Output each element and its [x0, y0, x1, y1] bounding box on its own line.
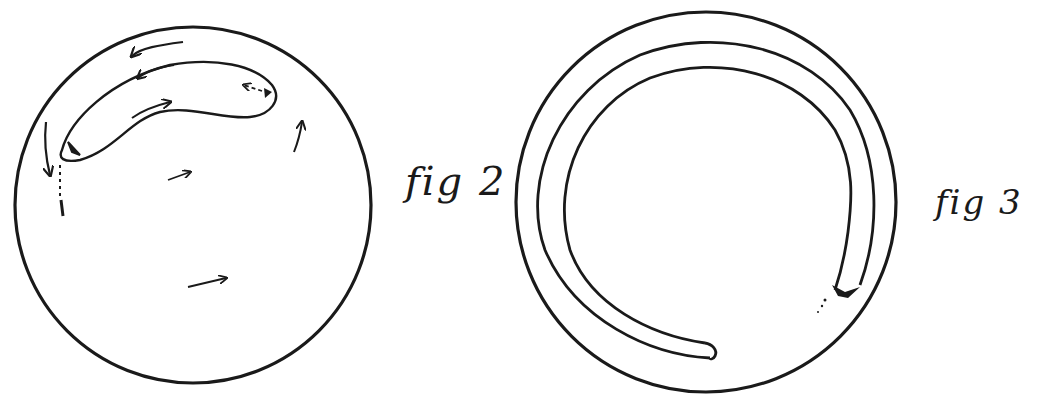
fig3-label: fig 3	[935, 182, 1023, 222]
fig3-spiral-band-outer	[545, 35, 894, 372]
fig3-band-outer-edge	[538, 42, 874, 358]
fig2-crescent-shape	[61, 62, 276, 161]
fig3-outer-circle	[516, 12, 896, 392]
fig2-trail-end	[61, 200, 63, 216]
arrow-icon	[45, 122, 50, 175]
arrow-icon	[188, 278, 226, 287]
fig2-label: fig 2	[405, 158, 506, 204]
fig2-crescent-end-right	[264, 88, 272, 98]
fig2-drawing	[15, 27, 371, 383]
fig2-outer-circle	[15, 27, 371, 383]
drawing-canvas	[0, 0, 1041, 400]
arrow-icon	[168, 172, 190, 180]
fig2-crescent-end-left	[68, 142, 80, 155]
arrow-icon	[138, 65, 174, 78]
arrow-icon	[132, 42, 183, 56]
arrow-icon	[294, 122, 302, 152]
fig3-band-inner-edge	[564, 67, 851, 343]
arrow-icon	[244, 85, 262, 91]
fig3-drawing	[516, 12, 896, 392]
